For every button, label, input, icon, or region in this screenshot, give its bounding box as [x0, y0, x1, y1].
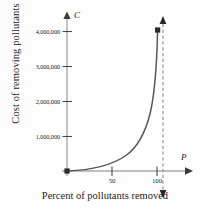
curve-origin-marker [64, 168, 69, 173]
x-axis-arrowhead [185, 167, 193, 174]
x-tick-label-100: 100 [147, 177, 167, 184]
y-axis-title: Cost of removing pollutants [10, 0, 21, 134]
cost-curve [67, 30, 158, 171]
x-axis-title: Percent of pollutants removed [30, 190, 180, 203]
y-axis-arrowhead [63, 12, 70, 20]
y-tick-label-1000000: 1,000,000 [22, 133, 60, 140]
curve-top-marker [155, 27, 160, 32]
y-tick-label-4000000: 4,000,000 [22, 28, 60, 35]
y-tick-label-2000000: 2,000,000 [22, 98, 60, 105]
asymptote-arrow-up-icon [160, 16, 167, 24]
x-tick-label-50: 50 [102, 177, 122, 184]
y-axis-symbol: C [74, 10, 80, 20]
x-axis-symbol: P [181, 152, 187, 162]
chart-figure: 4,000,000 3,000,000 2,000,000 1,000,000 … [0, 0, 201, 222]
y-tick-label-3000000: 3,000,000 [22, 63, 60, 70]
